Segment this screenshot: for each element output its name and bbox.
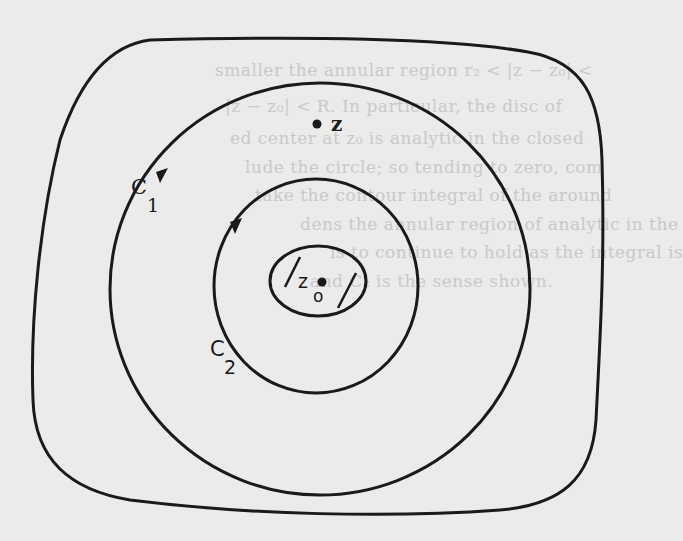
contour-c2-label: C <box>210 337 225 361</box>
point-z0-subscript: o <box>313 286 323 306</box>
hatch-mark <box>338 273 356 308</box>
c1-arrow-icon <box>156 168 168 183</box>
point-z0-label: z <box>298 270 308 292</box>
point-z-label: z <box>331 112 342 136</box>
contour-c1-subscript: 1 <box>147 194 159 216</box>
contour-c2-subscript: 2 <box>224 356 236 378</box>
contour-c1-label: C <box>131 175 147 199</box>
c2-arrow-icon <box>230 218 242 234</box>
outer-region-boundary <box>32 38 602 514</box>
point-z <box>313 120 322 129</box>
